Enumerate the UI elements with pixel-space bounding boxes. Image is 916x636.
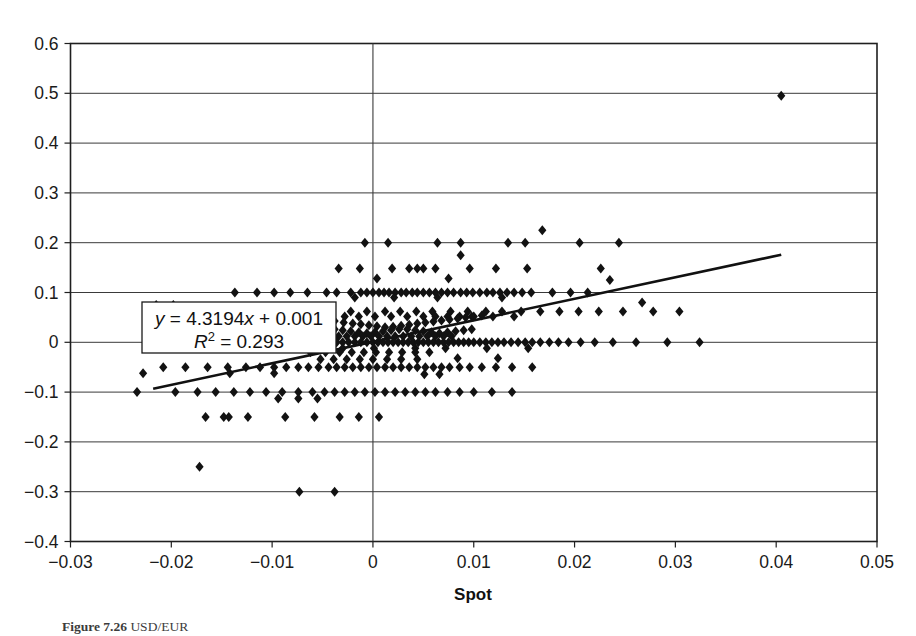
data-point <box>405 264 413 274</box>
data-point <box>577 337 585 347</box>
data-point <box>507 337 515 347</box>
data-point <box>443 387 451 397</box>
data-point <box>363 306 371 316</box>
data-point <box>431 264 439 274</box>
r-squared-exponent: 2 <box>208 329 215 344</box>
data-point <box>201 412 209 422</box>
data-point <box>536 337 544 347</box>
data-point <box>466 362 474 372</box>
y-tick-label: 0.3 <box>34 183 58 203</box>
data-point <box>528 362 536 372</box>
data-point <box>396 306 404 316</box>
data-point <box>365 362 373 372</box>
data-point <box>341 362 349 372</box>
data-point <box>313 394 321 404</box>
data-point <box>457 238 465 248</box>
data-point <box>521 238 529 248</box>
data-point <box>500 337 508 347</box>
data-point <box>476 288 484 298</box>
y-tick-label: 0.5 <box>34 83 58 103</box>
data-point <box>361 238 369 248</box>
data-point <box>381 387 389 397</box>
equation-line-1: y = 4.3194x + 0.001 <box>153 308 323 329</box>
data-point <box>663 337 671 347</box>
y-tick-label: −0.2 <box>24 432 59 452</box>
data-point <box>456 362 464 372</box>
data-point <box>331 487 339 497</box>
data-point <box>469 288 477 298</box>
x-axis-title: Spot <box>454 585 492 604</box>
data-point <box>355 412 363 422</box>
data-point <box>316 354 324 364</box>
data-point <box>488 387 496 397</box>
data-point <box>347 306 355 316</box>
data-point <box>504 238 512 248</box>
data-point <box>429 362 437 372</box>
data-point <box>389 362 397 372</box>
data-point <box>387 311 395 321</box>
data-point <box>449 288 457 298</box>
data-point <box>566 288 574 298</box>
data-point <box>411 387 419 397</box>
y-tick-label: 0 <box>49 332 59 352</box>
data-point <box>470 387 478 397</box>
data-point <box>204 362 212 372</box>
data-point <box>468 324 476 334</box>
data-point <box>324 362 332 372</box>
data-point <box>518 288 526 298</box>
data-point <box>356 264 364 274</box>
data-point <box>489 288 497 298</box>
data-point <box>282 362 290 372</box>
data-point <box>564 337 572 347</box>
data-point <box>281 412 289 422</box>
data-point <box>456 387 464 397</box>
data-point <box>609 337 617 347</box>
data-point <box>412 306 420 316</box>
data-point <box>375 412 383 422</box>
x-tick-label: 0.03 <box>658 552 692 572</box>
data-point <box>555 306 563 316</box>
data-point <box>478 362 486 372</box>
data-point <box>548 288 556 298</box>
data-point <box>405 362 413 372</box>
caption-text: USD/EUR <box>127 619 188 634</box>
data-point <box>510 288 518 298</box>
data-point <box>632 337 640 347</box>
data-point <box>675 306 683 316</box>
data-point <box>343 354 351 364</box>
y-tick-label: 0.1 <box>34 283 58 303</box>
data-point <box>595 306 603 316</box>
data-point <box>371 311 379 321</box>
data-point <box>403 311 411 321</box>
data-point <box>336 412 344 422</box>
data-point <box>460 325 468 335</box>
data-point <box>246 387 254 397</box>
data-point <box>335 264 343 274</box>
data-point <box>349 318 357 328</box>
data-point <box>181 362 189 372</box>
data-point <box>433 238 441 248</box>
data-point <box>554 337 562 347</box>
data-point <box>322 288 330 298</box>
data-point <box>341 387 349 397</box>
data-point <box>308 387 316 397</box>
data-point <box>295 487 303 497</box>
data-point <box>357 319 365 329</box>
data-point <box>413 362 421 372</box>
data-point <box>397 362 405 372</box>
data-point <box>355 311 363 321</box>
scatter-chart: −0.03−0.02−0.0100.010.020.030.040.05 0.6… <box>0 0 916 636</box>
data-point <box>349 362 357 372</box>
data-point <box>381 362 389 372</box>
data-point <box>388 264 396 274</box>
data-point <box>320 387 328 397</box>
data-point <box>304 362 312 372</box>
x-tick-label: 0 <box>368 552 378 572</box>
y-tick-label: 0.2 <box>34 233 58 253</box>
data-point <box>193 387 201 397</box>
data-point <box>303 288 311 298</box>
data-point <box>384 238 392 248</box>
equation-rhs: = 4.3194 <box>165 308 245 329</box>
data-point <box>419 264 427 274</box>
data-point <box>454 353 462 363</box>
